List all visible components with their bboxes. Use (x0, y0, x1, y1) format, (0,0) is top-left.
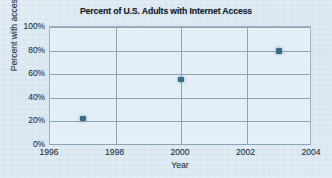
x-tick-text: 2002 (236, 147, 255, 157)
plot-area (49, 26, 311, 145)
gridline-vertical (116, 27, 117, 144)
x-axis-tick-label: 1996 (29, 147, 69, 157)
y-tick-text: 80% (28, 45, 45, 55)
x-axis-title: Year (49, 160, 311, 170)
y-tick-text: 20% (28, 115, 45, 125)
x-tick-text: 2000 (170, 147, 189, 157)
y-axis-tick-label: 60% (0, 68, 45, 78)
gridline-horizontal (50, 51, 310, 52)
y-tick-text: 100% (24, 21, 45, 31)
x-axis-tick-label: 2002 (226, 147, 266, 157)
y-axis-title: Percent with access (9, 0, 19, 93)
y-axis-tick-label: 20% (0, 115, 45, 125)
y-axis-tick-label: 100% (0, 21, 45, 31)
x-axis-tick-label: 2000 (160, 147, 200, 157)
y-axis-tick-label: 80% (0, 45, 45, 55)
gridline-vertical (247, 27, 248, 144)
page-title: Percent of U.S. Adults with Internet Acc… (8, 6, 323, 16)
gridline-horizontal (50, 121, 310, 122)
data-point (80, 116, 86, 122)
data-point (276, 48, 282, 54)
x-tick-text: 1998 (105, 147, 124, 157)
gridline-horizontal (50, 74, 310, 75)
x-axis-tick-label: 2004 (291, 147, 331, 157)
gridline-horizontal (50, 144, 310, 145)
chart-figure: Percent of U.S. Adults with Internet Acc… (0, 0, 332, 178)
y-tick-text: 60% (28, 68, 45, 78)
y-tick-text: 40% (28, 92, 45, 102)
gridline-horizontal (50, 98, 310, 99)
y-axis-tick-label: 40% (0, 92, 45, 102)
data-point (178, 77, 184, 83)
gridline-vertical (181, 27, 182, 144)
gridline-horizontal (50, 27, 310, 28)
x-axis-tick-label: 1998 (95, 147, 135, 157)
x-tick-text: 2004 (301, 147, 320, 157)
x-tick-text: 1996 (39, 147, 58, 157)
